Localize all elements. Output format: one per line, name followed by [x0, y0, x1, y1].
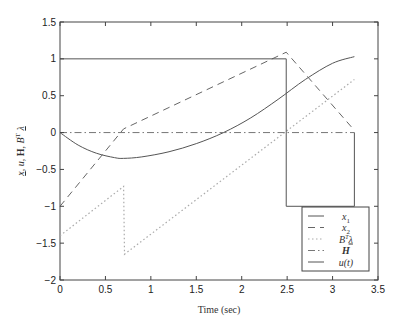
x-tick-label: 0 — [57, 284, 63, 295]
y-tick-label: 1.5 — [42, 17, 56, 28]
y-tick-label: −2 — [45, 275, 57, 286]
x-tick-label: 3.5 — [371, 284, 385, 295]
chart-figure: 00.511.522.533.5 −2−1.5−1−0.500.511.5 Ti… — [0, 0, 404, 329]
x-tick-label: 2.5 — [280, 284, 294, 295]
y-tick-label: −0.5 — [36, 164, 56, 175]
x-tick-label: 1.5 — [189, 284, 203, 295]
series-x1 — [60, 57, 354, 159]
x-axis-label: Time (sec) — [198, 304, 241, 316]
x-tick-label: 0.5 — [98, 284, 112, 295]
series-x2 — [60, 52, 354, 206]
y-tick-label: 0 — [50, 127, 56, 138]
x-tick-label: 2 — [239, 284, 245, 295]
legend-label: H — [341, 245, 351, 256]
legend-label: u(t) — [339, 257, 354, 269]
y-tick-label: 0.5 — [42, 90, 56, 101]
legend: x1x2BTλHu(t) — [302, 207, 369, 271]
y-tick-label: −1 — [45, 201, 57, 212]
y-axis-label: x, u, H, BT λ — [14, 126, 26, 177]
svg-text:x, u, H, BT λ: x, u, H, BT λ — [14, 126, 26, 177]
x-tick-label: 1 — [148, 284, 154, 295]
x-tick-label: 3 — [330, 284, 336, 295]
y-tick-label: 1 — [50, 53, 56, 64]
y-tick-label: −1.5 — [36, 238, 56, 249]
